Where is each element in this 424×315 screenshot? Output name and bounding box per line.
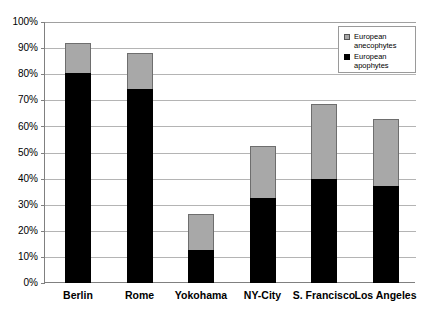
y-tick-label: 10% [0, 252, 38, 262]
chart-legend: European anecophytes European apophytes [338, 26, 416, 73]
legend-entry-anecophytes: European anecophytes [344, 32, 414, 50]
bar-group [65, 43, 91, 283]
bar-segment-anecophytes [373, 119, 399, 187]
bar-segment-apophytes [188, 250, 214, 283]
bar-segment-anecophytes [250, 146, 276, 198]
bar-group [188, 214, 214, 283]
bar-segment-apophytes [311, 179, 337, 283]
y-tick-label: 70% [0, 95, 38, 105]
y-tick-label: 0% [0, 278, 38, 288]
legend-label: European anecophytes [354, 32, 414, 50]
bar-segment-apophytes [373, 186, 399, 283]
black-square-icon [344, 54, 350, 60]
x-tick-label: Los Angeles [346, 289, 424, 301]
bar-group [311, 104, 337, 283]
stacked-bar-chart: 100% 90% 80% 70% 60% 50% 40% 30% 20% 10%… [0, 0, 424, 315]
y-tick-label: 90% [0, 43, 38, 53]
bar-segment-apophytes [250, 198, 276, 283]
bar-segment-anecophytes [65, 43, 91, 73]
gray-square-icon [344, 34, 350, 40]
y-tick-label: 20% [0, 226, 38, 236]
y-tick-label: 40% [0, 174, 38, 184]
y-tick-label: 80% [0, 69, 38, 79]
bar-group [250, 146, 276, 283]
y-tick-label: 30% [0, 200, 38, 210]
y-tick-label: 50% [0, 148, 38, 158]
bar-segment-apophytes [127, 89, 153, 283]
bar-segment-anecophytes [127, 53, 153, 88]
y-tick [41, 283, 45, 284]
y-tick-label: 60% [0, 122, 38, 132]
bar-group [373, 119, 399, 283]
bar-segment-anecophytes [188, 214, 214, 251]
legend-label: European apophytes [354, 52, 414, 70]
y-tick-label: 100% [0, 17, 38, 27]
legend-entry-apophytes: European apophytes [344, 52, 414, 70]
bar-segment-apophytes [65, 73, 91, 283]
bar-segment-anecophytes [311, 104, 337, 178]
bar-group [127, 53, 153, 283]
